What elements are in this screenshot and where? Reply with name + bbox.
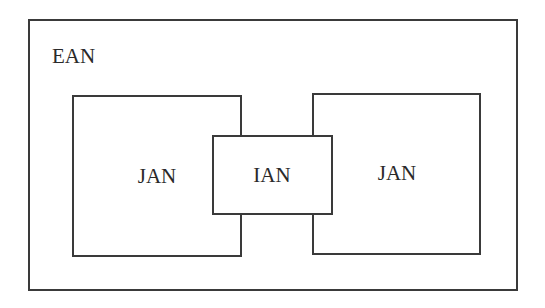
intersection-label: IAN — [253, 165, 290, 186]
right-set-label: JAN — [378, 163, 417, 184]
outer-set-label: EAN — [52, 46, 95, 67]
left-set-label: JAN — [138, 166, 177, 187]
